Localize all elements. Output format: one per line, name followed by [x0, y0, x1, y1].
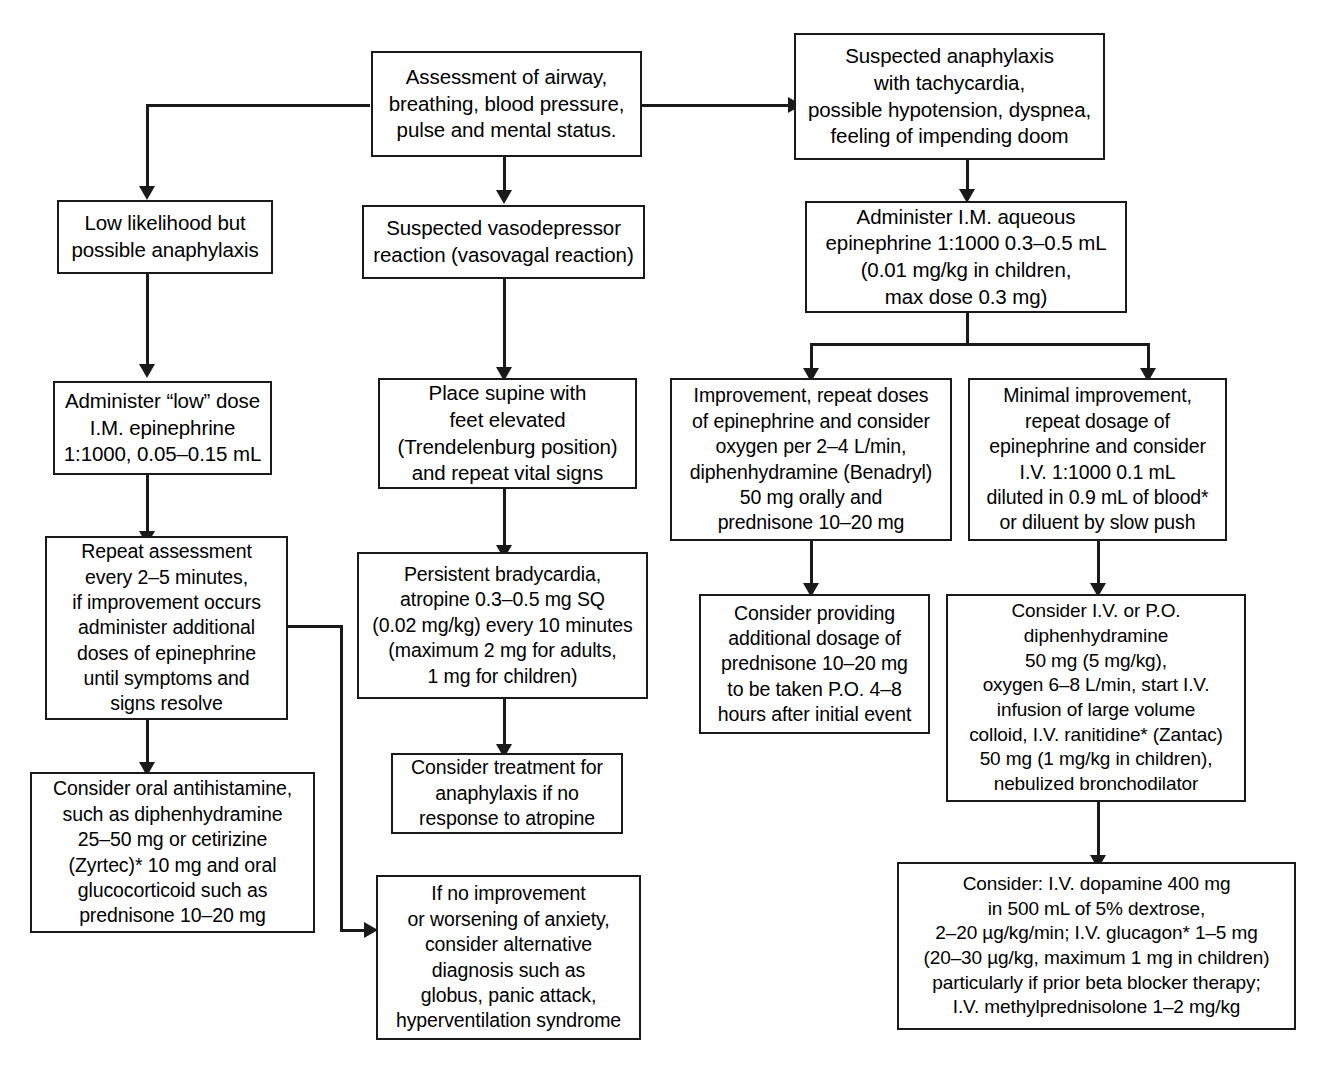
arrowhead-to-vasodepressor [496, 190, 512, 204]
connector-repeat-assessment-right [288, 625, 343, 628]
node-persistent-bradycardia[interactable]: Persistent bradycardia, atropine 0.3–0.5… [357, 552, 648, 699]
connector-consider-iv-po-down [1097, 800, 1100, 860]
node-consider-oral-antihistamine[interactable]: Consider oral antihistamine, such as dip… [30, 772, 315, 933]
connector-split-right-down [1147, 343, 1150, 371]
node-repeat-assessment[interactable]: Repeat assessment every 2–5 minutes, if … [45, 536, 288, 720]
connector-left-vertical [146, 104, 149, 188]
connector-assessment-to-anaphylaxis [640, 104, 792, 107]
node-low-likelihood[interactable]: Low likelihood but possible anaphylaxis [57, 200, 273, 274]
node-consider-iv-po[interactable]: Consider I.V. or P.O. diphenhydramine 50… [946, 594, 1246, 802]
connector-repeat-assessment-down [146, 718, 149, 768]
connector-vasodepressor-down [503, 277, 506, 371]
connector-minimal-improvement-down [1097, 539, 1100, 587]
connector-bradycardia-down [503, 697, 506, 749]
arrowhead-to-administer-low-dose [139, 364, 155, 378]
connector-split-horizontal [810, 343, 1150, 346]
arrowhead-to-low-likelihood [139, 186, 155, 200]
node-assessment[interactable]: Assessment of airway, breathing, blood p… [371, 51, 642, 157]
connector-split-left-down [810, 343, 813, 371]
connector-elbow-vertical [340, 625, 343, 931]
connector-improvement-down [810, 539, 813, 587]
connector-assessment-down [503, 155, 506, 193]
connector-low-dose-down [146, 473, 149, 535]
node-no-improvement[interactable]: If no improvement or worsening of anxiet… [376, 875, 641, 1040]
connector-place-supine-down [503, 487, 506, 549]
node-administer-im-aqueous[interactable]: Administer I.M. aqueous epinephrine 1:10… [805, 201, 1127, 313]
node-consider-providing[interactable]: Consider providing additional dosage of … [699, 594, 930, 734]
node-place-supine[interactable]: Place supine with feet elevated (Trendel… [378, 378, 637, 489]
node-consider-treatment[interactable]: Consider treatment for anaphylaxis if no… [391, 753, 623, 834]
node-improvement[interactable]: Improvement, repeat doses of epinephrine… [670, 378, 952, 541]
node-minimal-improvement[interactable]: Minimal improvement, repeat dosage of ep… [968, 378, 1227, 541]
connector-administer-im-down [966, 311, 969, 345]
flowchart-canvas: Assessment of airway, breathing, blood p… [0, 0, 1333, 1065]
connector-assessment-to-left [146, 104, 370, 107]
node-suspected-anaphylaxis[interactable]: Suspected anaphylaxis with tachycardia, … [794, 33, 1105, 160]
node-suspected-vasodepressor[interactable]: Suspected vasodepressor reaction (vasova… [362, 205, 645, 279]
connector-low-likelihood-down [146, 272, 149, 368]
node-consider-dopamine[interactable]: Consider: I.V. dopamine 400 mg in 500 mL… [897, 862, 1296, 1030]
node-administer-low-dose[interactable]: Administer “low” dose I.M. epinephrine 1… [53, 381, 272, 475]
